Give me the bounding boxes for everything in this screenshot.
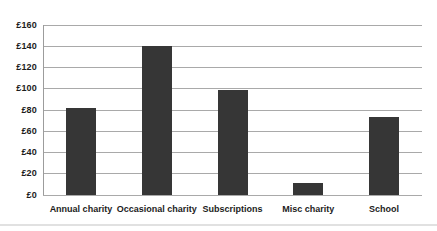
y-tick-label: £40 bbox=[0, 148, 37, 157]
gridline bbox=[43, 67, 422, 68]
gridline bbox=[43, 25, 422, 26]
x-category-label: School bbox=[334, 204, 434, 214]
bar-misc-charity bbox=[293, 183, 323, 195]
y-tick-label: £0 bbox=[0, 191, 37, 200]
y-axis-line bbox=[43, 25, 44, 195]
bar-annual-charity bbox=[66, 108, 96, 195]
y-tick-label: £140 bbox=[0, 42, 37, 51]
gridline bbox=[43, 46, 422, 47]
expenses-bar-chart: £0£20£40£60£80£100£120£140£160 Annual ch… bbox=[0, 0, 437, 231]
y-tick-label: £160 bbox=[0, 21, 37, 30]
bar-school bbox=[369, 117, 399, 195]
y-tick-label: £60 bbox=[0, 127, 37, 136]
bar-occasional-charity bbox=[142, 46, 172, 195]
y-tick-label: £80 bbox=[0, 106, 37, 115]
bar-subscriptions bbox=[218, 90, 248, 195]
y-tick-label: £120 bbox=[0, 63, 37, 72]
scan-artifact-line bbox=[0, 224, 437, 226]
y-tick-label: £20 bbox=[0, 169, 37, 178]
y-tick-label: £100 bbox=[0, 84, 37, 93]
